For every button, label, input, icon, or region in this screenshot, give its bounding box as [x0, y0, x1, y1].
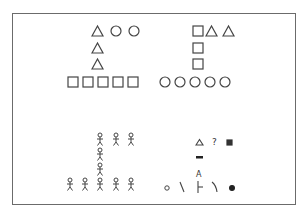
- tee-icon: [198, 181, 203, 193]
- stick-figure-icon: [97, 148, 103, 161]
- group-bottom-right: [165, 140, 235, 194]
- letter-a-glyph: A: [196, 171, 201, 179]
- circle-icon: [175, 77, 185, 87]
- stick-figure-icon: [67, 178, 73, 191]
- square-icon: [193, 26, 203, 36]
- circle-icon: [190, 77, 200, 87]
- circle-icon: [205, 77, 215, 87]
- stick-figure-icon: [97, 133, 103, 146]
- square-icon: [68, 77, 78, 87]
- small-triangle-icon: [196, 140, 203, 146]
- stick-figure-icon: [128, 133, 134, 146]
- stick-figure-icon: [97, 163, 103, 176]
- circle-icon: [111, 26, 121, 36]
- square-icon: [83, 77, 93, 87]
- square-icon: [113, 77, 123, 87]
- group-top-right: [160, 26, 234, 87]
- circle-icon: [220, 77, 230, 87]
- puzzle-canvas: [0, 0, 306, 218]
- square-icon: [193, 59, 203, 69]
- stick-figure-icon: [97, 178, 103, 191]
- stick-figure-icon: [113, 178, 119, 191]
- group-top-left: [68, 26, 139, 87]
- square-icon: [98, 77, 108, 87]
- small-circle-icon: [165, 186, 169, 190]
- triangle-icon: [223, 26, 234, 36]
- stick-figure-icon: [113, 133, 119, 146]
- stick-figure-icon: [128, 178, 134, 191]
- circle-icon: [129, 26, 139, 36]
- square-icon: [128, 77, 138, 87]
- triangle-icon: [92, 26, 103, 36]
- triangle-icon: [206, 26, 217, 36]
- circle-icon: [160, 77, 170, 87]
- stick-figure-icon: [82, 178, 88, 191]
- backslash-icon: [180, 182, 184, 192]
- small-filled-square-icon: [227, 140, 232, 145]
- triangle-icon: [92, 43, 103, 53]
- square-icon: [193, 43, 203, 53]
- group-bottom-left: [67, 133, 134, 191]
- right-curve-icon: [212, 182, 217, 192]
- filled-dot-icon: [230, 186, 235, 191]
- dash-icon: [196, 156, 203, 159]
- question-mark-glyph: ?: [212, 138, 217, 147]
- triangle-icon: [92, 59, 103, 69]
